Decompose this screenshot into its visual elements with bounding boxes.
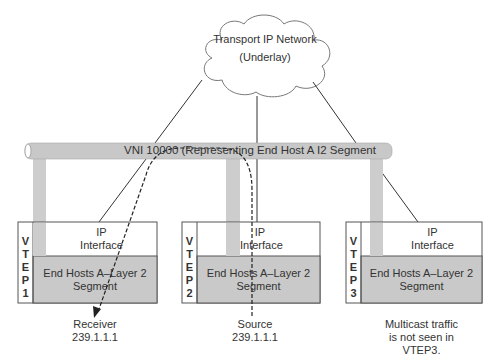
cloud-title: Transport IP Network (Underlay) [205, 33, 325, 64]
vtep3-segment-line1: End Hosts A–Layer 2 [361, 267, 482, 280]
vtep3-note-line1: Multicast traffic [361, 318, 482, 331]
vtep2-segment-line2: Segment [197, 280, 320, 293]
vtep2-ip-line1: IP [240, 226, 280, 239]
vtep1-segment: End Hosts A–Layer 2 Segment [33, 267, 157, 293]
vtep2-caption: Source 239.1.1.1 [200, 318, 310, 344]
vtep2-segment: End Hosts A–Layer 2 Segment [197, 267, 320, 293]
receiver-group-address: 239.1.1.1 [40, 331, 150, 344]
vtep1-segment-line1: End Hosts A–Layer 2 [33, 267, 157, 280]
vtep3-ip-line2: Interface [383, 239, 482, 252]
source-label: Source [200, 318, 310, 331]
underlay-link-vtep3 [313, 82, 356, 143]
vtep3-note-line3: VTEP3. [361, 344, 482, 357]
vtep1-ip-line1: IP [46, 226, 157, 239]
cloud-title-line1: Transport IP Network [205, 33, 325, 46]
vtep3-note-line2: is not seen in [361, 331, 482, 344]
vtep1-segment-line2: Segment [33, 280, 157, 293]
vtep1-link-lower [93, 159, 146, 230]
vtep3-segment: End Hosts A–Layer 2 Segment [361, 267, 482, 293]
source-group-address: 239.1.1.1 [200, 331, 310, 344]
vtep3-ip-interface: IP Interface [383, 226, 482, 252]
vtep3-label: V T E P 3 [346, 235, 361, 300]
vtep2-ip-interface: IP Interface [240, 226, 280, 252]
vtep2-segment-line1: End Hosts A–Layer 2 [197, 267, 320, 280]
vtep1-label: V T E P 1 [18, 235, 33, 300]
vtep3-caption: Multicast traffic is not seen in VTEP3. [361, 318, 482, 357]
vtep3-ip-line1: IP [383, 226, 482, 239]
vtep2-ip-line2: Interface [240, 239, 280, 252]
vtep2-label: V T E P 2 [182, 235, 197, 300]
cloud-title-line2: (Underlay) [205, 51, 325, 64]
arrow-head-icon [93, 306, 101, 318]
vtep1-ip-line2: Interface [46, 239, 157, 252]
vtep1-caption: Receiver 239.1.1.1 [40, 318, 150, 344]
vtep1-ip-interface: IP Interface [46, 226, 157, 252]
vtep3-segment-line2: Segment [361, 280, 482, 293]
underlay-link-vtep1 [155, 80, 202, 143]
vni-bar-label: VNI 10000 (Representing End Host A I2 Se… [124, 144, 376, 157]
receiver-label: Receiver [40, 318, 150, 331]
